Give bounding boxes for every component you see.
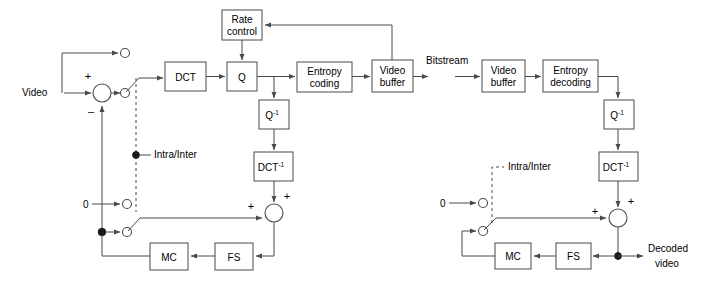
block-q-label: Q [238, 72, 246, 83]
adder-decoder-top-plus: + [628, 195, 634, 207]
encoder-switch-contact-intra[interactable] [121, 49, 130, 58]
diagram-canvas: Video + – Intra/Inter DCT Q Rate control… [0, 0, 706, 283]
block-entropy-coding-label-1: Entropy [307, 66, 341, 77]
block-dct-label: DCT [175, 72, 196, 83]
bitstream-label: Bitstream [426, 55, 468, 66]
encoder-pred-junction-dot [98, 228, 106, 236]
decoder-switch-pole[interactable] [484, 218, 606, 230]
encoder-zero-label: 0 [83, 199, 89, 210]
decoded-video-label-1: Decoded [648, 243, 688, 254]
block-video-buffer-decoder-label-1: Video [491, 65, 517, 76]
block-entropy-decoding-label-2: decoding [550, 77, 591, 88]
decoder-prediction-switch[interactable]: 0 [440, 198, 606, 236]
block-mc-encoder-label: MC [161, 252, 177, 263]
adder-node-encoder [265, 204, 283, 222]
mc-out-to-switch-decoder [462, 231, 495, 256]
adder-decoder-left-plus: + [592, 205, 598, 217]
encoder-input-switch[interactable] [121, 49, 164, 98]
block-video-buffer-encoder-label-2: buffer [380, 77, 406, 88]
block-fs-encoder-label: FS [228, 252, 241, 263]
block-mc-decoder-label: MC [505, 251, 521, 262]
encoder-intra-inter-junction-dot [133, 152, 140, 159]
adder-encoder-left-plus: + [248, 200, 254, 212]
buffer-to-rate-control-feedback [265, 25, 392, 60]
block-rate-control-label-1: Rate [231, 14, 253, 25]
block-entropy-coding-label-2: coding [310, 78, 339, 89]
encoder-pred-switch-pole[interactable] [128, 218, 262, 231]
block-fs-decoder-label: FS [567, 251, 580, 262]
entropy-decoding-to-inverse-q-line [598, 77, 618, 99]
subtractor-node [93, 84, 111, 102]
block-video-buffer-decoder-label-2: buffer [491, 77, 517, 88]
encoder-prediction-switch[interactable]: 0 [83, 199, 262, 237]
block-entropy-decoding-label-1: Entropy [553, 65, 587, 76]
decoder-zero-label: 0 [440, 198, 446, 209]
block-rate-control-label-2: control [227, 26, 257, 37]
adder-to-fs-line-encoder [256, 222, 274, 256]
encoder-switch-pole[interactable] [126, 78, 163, 92]
decoder-switch-contact-zero[interactable] [479, 199, 488, 208]
decoder-intra-inter-label: Intra/Inter [508, 161, 551, 172]
codec-block-diagram: Video + – Intra/Inter DCT Q Rate control… [0, 0, 706, 283]
mc-out-to-switch-encoder [102, 235, 150, 256]
encoder-intra-inter-label: Intra/Inter [154, 149, 197, 160]
adder-encoder-top-plus: + [284, 190, 290, 202]
decoded-video-label-2: video [655, 258, 679, 269]
video-input-label: Video [22, 87, 48, 98]
subtractor-minus-sign: – [88, 105, 95, 117]
block-video-buffer-encoder-label-1: Video [380, 65, 406, 76]
adder-node-decoder [609, 209, 627, 227]
subtractor-plus-sign: + [85, 70, 91, 82]
encoder-pred-switch-contact-zero[interactable] [123, 200, 132, 209]
decoder-intra-inter-control-line [492, 167, 504, 223]
